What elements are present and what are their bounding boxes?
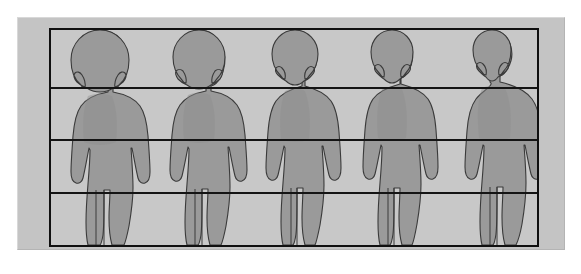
figure-canvas xyxy=(0,0,581,274)
proportion-diagram-stage: Human body proportions by age Comparativ… xyxy=(0,0,581,274)
head-toddler xyxy=(173,30,225,89)
head-infant xyxy=(71,30,129,92)
